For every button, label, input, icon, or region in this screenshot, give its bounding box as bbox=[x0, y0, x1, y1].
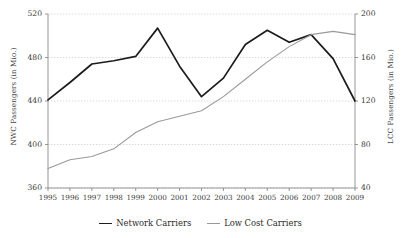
legend-label-network-carriers: Network Carriers bbox=[116, 218, 191, 228]
chart-legend: Network Carriers Low Cost Carriers bbox=[0, 218, 401, 228]
legend-line-icon-network-carriers bbox=[99, 223, 112, 224]
gridlines bbox=[48, 14, 355, 188]
series-line-network-carriers bbox=[48, 28, 355, 101]
tick-marks bbox=[45, 14, 358, 191]
legend-item-network-carriers: Network Carriers bbox=[99, 218, 191, 228]
series-line-low-cost-carriers bbox=[48, 31, 355, 168]
legend-label-low-cost-carriers: Low Cost Carriers bbox=[224, 218, 302, 228]
chart-container: NWC Passengers (in Mio.) LCC Passengers … bbox=[0, 0, 401, 238]
legend-item-low-cost-carriers: Low Cost Carriers bbox=[207, 218, 302, 228]
plot-area bbox=[0, 0, 401, 238]
series-lines bbox=[48, 28, 355, 168]
legend-line-icon-low-cost-carriers bbox=[207, 223, 220, 224]
